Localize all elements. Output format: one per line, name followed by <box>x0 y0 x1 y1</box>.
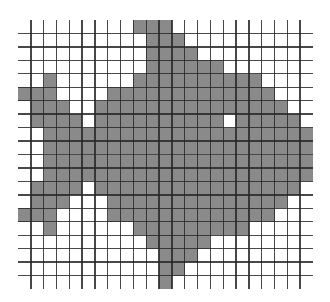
grid-line-horizontal <box>18 127 313 128</box>
grid-line-horizontal <box>18 140 313 141</box>
grid-line-vertical <box>30 20 31 289</box>
grid-line-horizontal <box>18 154 313 155</box>
pixel-grid <box>18 20 313 289</box>
grid-line-horizontal <box>18 194 313 195</box>
grid-line-horizontal <box>18 46 313 47</box>
grid-line-horizontal <box>18 235 313 236</box>
filled-cell-run <box>133 20 171 33</box>
grid-line-vertical <box>223 20 224 289</box>
grid-line-vertical <box>235 20 236 289</box>
grid-line-horizontal <box>18 73 313 74</box>
grid-line-vertical <box>248 20 249 289</box>
filled-cell-run <box>146 33 184 46</box>
filled-cell-run <box>18 87 56 100</box>
grid-line-vertical <box>158 20 159 289</box>
grid-line-vertical <box>133 20 134 289</box>
filled-cell-run <box>44 155 313 168</box>
grid-line-vertical <box>274 20 275 289</box>
grid-line-vertical <box>107 20 108 289</box>
filled-cell-run <box>146 235 210 248</box>
grid-line-horizontal <box>18 167 313 168</box>
grid-line-vertical <box>69 20 70 289</box>
filled-cell-run <box>44 168 313 181</box>
grid-line-vertical <box>197 20 198 289</box>
grid-line-horizontal <box>18 60 313 61</box>
grid-line-horizontal <box>18 100 313 101</box>
grid-line-horizontal <box>18 87 313 88</box>
grid-line-vertical <box>43 20 44 289</box>
grid-line-horizontal <box>18 33 313 34</box>
grid-line-horizontal <box>18 208 313 209</box>
grid-line-vertical <box>120 20 121 289</box>
filled-cell-run <box>133 222 248 235</box>
grid-line-horizontal <box>18 261 313 262</box>
filled-cell-run <box>18 208 56 221</box>
grid-line-vertical <box>261 20 262 289</box>
grid-line-vertical <box>81 20 82 289</box>
filled-cell-run <box>44 128 313 141</box>
grid-line-vertical <box>287 20 288 289</box>
grid-line-vertical <box>94 20 95 289</box>
filled-cell-run <box>159 249 197 262</box>
grid-line-horizontal <box>18 221 313 222</box>
filled-cell-run <box>159 276 172 289</box>
grid-line-horizontal <box>18 275 313 276</box>
filled-cell-run <box>31 101 69 114</box>
grid-line-horizontal <box>18 248 313 249</box>
filled-cell-run <box>236 114 300 127</box>
filled-cell-run <box>44 222 57 235</box>
grid-line-vertical <box>299 20 300 289</box>
grid-line-vertical <box>171 20 172 289</box>
grid-line-horizontal <box>18 113 313 114</box>
filled-cell-run <box>31 195 69 208</box>
filled-cell-run <box>44 141 313 154</box>
filled-cell-run <box>95 101 287 114</box>
grid-line-horizontal <box>18 181 313 182</box>
filled-cell-run <box>44 74 57 87</box>
grid-line-vertical <box>210 20 211 289</box>
grid-line-vertical <box>56 20 57 289</box>
grid-line-vertical <box>184 20 185 289</box>
grid-line-vertical <box>146 20 147 289</box>
